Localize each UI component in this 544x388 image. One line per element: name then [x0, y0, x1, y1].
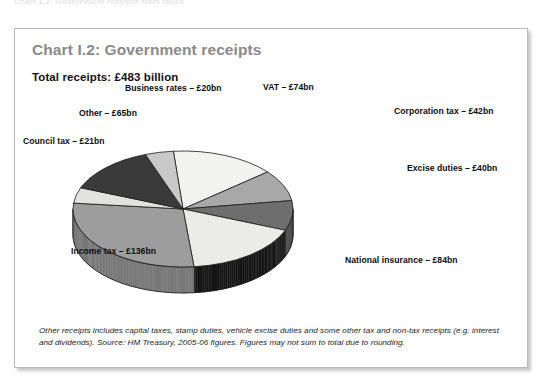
pie-label-council-tax: Council tax – £21bn [23, 136, 105, 146]
pie-chart-svg [15, 91, 527, 313]
cropped-page-header: Chart 1.2: Government receipts from taxe… [14, 0, 434, 7]
chart-subtitle: Total receipts: £483 billion [32, 71, 178, 83]
pie-label-business-rates: Business rates – £20bn [125, 83, 222, 93]
chart-footnote: Other receipts includes capital taxes, s… [39, 325, 509, 348]
pie-chart-plot-area: Business rates – £20bn VAT – £74bn Other… [15, 91, 527, 313]
pie-label-income-tax: Income tax – £136bn [71, 246, 156, 256]
pie-label-vat: VAT – £74bn [263, 82, 314, 92]
chart-title: Chart I.2: Government receipts [32, 41, 262, 59]
pie-label-national-insurance: National insurance – £84bn [345, 255, 458, 265]
pie-label-excise-duties: Excise duties – £40bn [407, 163, 497, 173]
chart-panel: Chart I.2: Government receipts Total rec… [14, 28, 528, 368]
pie-label-other: Other – £65bn [79, 108, 137, 118]
pie-label-corporation-tax: Corporation tax – £42bn [394, 106, 494, 116]
